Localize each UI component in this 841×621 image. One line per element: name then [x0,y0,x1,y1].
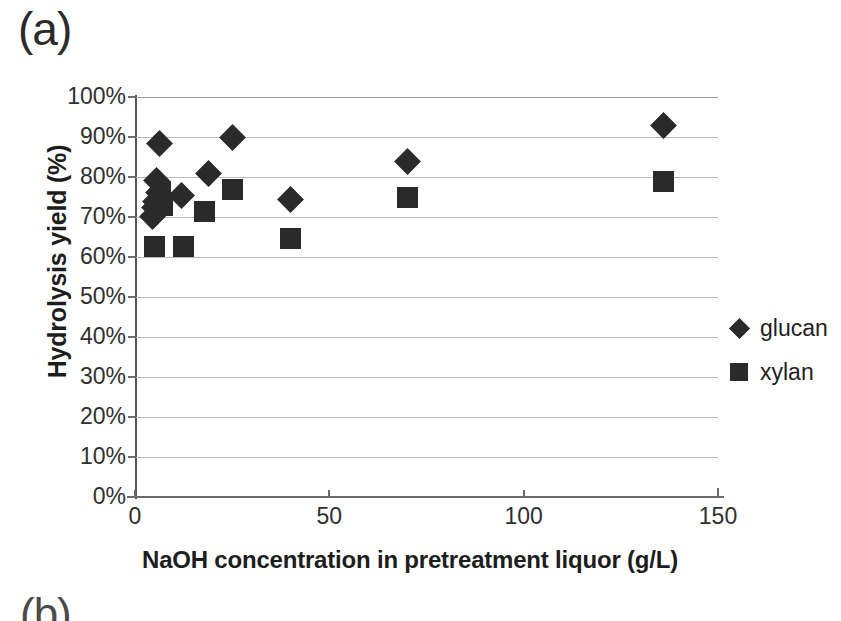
y-tick-mark-40 [128,336,136,338]
data-point-glucan-9 [277,186,304,213]
x-tick-label-150: 150 [673,503,763,529]
x-tick-mark-0 [134,490,136,498]
plot-area [135,97,718,497]
y-tick-mark-20 [128,416,136,418]
y-tick-mark-70 [128,216,136,218]
gridline-y-100 [135,97,718,98]
chart-legend: glucanxylan [730,306,840,394]
data-point-glucan-10 [394,148,421,175]
hydrolysis-yield-scatter-chart: 0%10%20%30%40%50%60%70%80%90%100% 050100… [0,0,841,621]
x-tick-label-0: 0 [90,503,180,529]
gridline-y-40 [135,337,718,338]
data-point-xylan-7 [397,187,418,208]
y-tick-mark-100 [128,96,136,98]
square-marker-icon [730,363,748,381]
data-point-glucan-5 [146,130,173,157]
y-tick-mark-90 [128,136,136,138]
y-tick-mark-50 [128,296,136,298]
x-axis-title: NaOH concentration in pretreatment liquo… [60,546,760,574]
y-axis-title: Hydrolysis yield (%) [43,62,72,462]
data-point-xylan-0 [144,236,165,257]
data-point-glucan-11 [650,112,677,139]
gridline-y-10 [135,457,718,458]
x-tick-label-50: 50 [284,503,374,529]
data-point-xylan-5 [222,179,243,200]
legend-item-glucan: glucan [730,306,840,350]
gridline-y-50 [135,297,718,298]
legend-label-xylan: xylan [760,361,814,384]
gridline-y-60 [135,257,718,258]
y-tick-mark-80 [128,176,136,178]
data-point-glucan-8 [219,124,246,151]
data-point-xylan-4 [194,201,215,222]
gridline-y-20 [135,417,718,418]
data-point-xylan-3 [173,236,194,257]
data-point-xylan-2 [152,195,173,216]
panel-label-b: (b) [20,592,71,621]
data-point-glucan-7 [195,160,222,187]
data-point-xylan-6 [280,228,301,249]
diamond-marker-icon [729,317,750,338]
x-tick-mark-100 [523,490,525,498]
x-tick-mark-50 [328,490,330,498]
x-tick-label-100: 100 [479,503,569,529]
legend-label-glucan: glucan [760,317,828,340]
gridline-y-30 [135,377,718,378]
y-tick-mark-60 [128,256,136,258]
legend-item-xylan: xylan [730,350,840,394]
gridline-y-70 [135,217,718,218]
y-tick-mark-10 [128,456,136,458]
data-point-xylan-8 [653,171,674,192]
y-tick-mark-30 [128,376,136,378]
